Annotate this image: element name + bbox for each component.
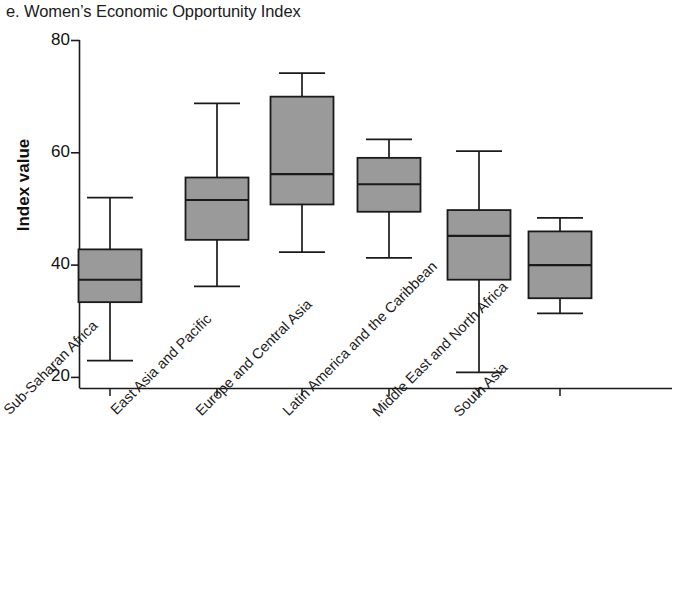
boxplot-item: [358, 139, 421, 257]
box-iqr: [186, 178, 249, 240]
x-axis-ticks: [110, 389, 560, 397]
box-iqr: [448, 210, 511, 280]
box-iqr: [271, 97, 334, 205]
box-iqr: [79, 249, 142, 302]
boxplot-item: [529, 218, 592, 313]
box-group: [79, 73, 592, 372]
boxplot-item: [186, 103, 249, 286]
figure-panel-e: e. Women’s Economic Opportunity Index In…: [0, 0, 674, 593]
boxplot-item: [271, 73, 334, 252]
boxplot-canvas: [0, 0, 674, 593]
